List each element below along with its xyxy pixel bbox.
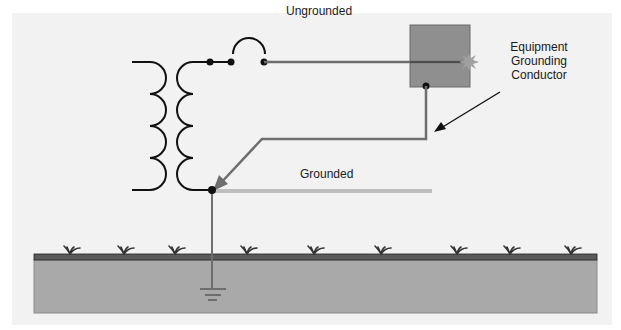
junction-dot (207, 59, 214, 66)
ungrounded-label: Ungrounded (286, 4, 352, 18)
transformer-primary-coil-icon (132, 62, 166, 190)
soil (34, 260, 597, 313)
egc-label-line3: Conductor (499, 68, 579, 82)
egc-label-line2: Grounding (499, 54, 579, 68)
ground-surface (34, 254, 597, 260)
egc-callout-line (441, 92, 500, 128)
grounded-label: Grounded (300, 167, 353, 181)
egc-label: Equipment Grounding Conductor (499, 40, 579, 82)
egc-callout-arrowhead-icon (434, 122, 446, 132)
egc-label-line1: Equipment (499, 40, 579, 54)
transformer-secondary-coil-icon (177, 62, 212, 190)
neutral-bond-dot (208, 186, 216, 194)
switch-contact-dot (228, 59, 235, 66)
equipment-enclosure (410, 25, 470, 87)
grass-icons (64, 246, 581, 254)
overcurrent-device-icon (233, 38, 265, 54)
